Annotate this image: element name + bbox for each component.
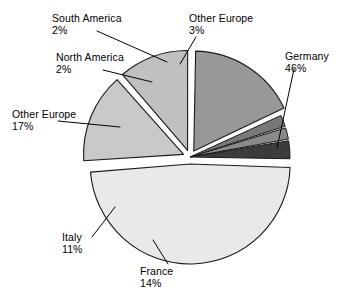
pie-chart-canvas [0,0,341,299]
label-other-europe-17-name: Other Europe [12,108,76,120]
label-france-name: France [140,265,173,277]
label-france: France 14% [140,265,173,289]
label-south-america: South America 2% [52,12,122,36]
label-north-america: North America 2% [56,51,124,75]
label-south-america-pct: 2% [52,24,122,36]
label-germany: Germany 46% [285,50,329,74]
label-north-america-name: North America [56,51,124,63]
label-italy-pct: 11% [62,243,83,255]
label-other-europe-3: Other Europe 3% [189,12,253,36]
label-other-europe-3-pct: 3% [189,24,253,36]
label-other-europe-3-name: Other Europe [189,12,253,24]
label-germany-name: Germany [285,50,329,62]
label-north-america-pct: 2% [56,63,124,75]
label-germany-pct: 46% [285,62,329,74]
label-italy: Italy 11% [62,231,83,255]
slice-germany[interactable] [91,164,291,264]
label-france-pct: 14% [140,277,173,289]
label-south-america-name: South America [52,12,122,24]
pie-chart-figure: South America 2% Other Europe 3% North A… [0,0,341,299]
label-other-europe-17-pct: 17% [12,120,76,132]
label-italy-name: Italy [62,231,82,243]
pie-slices [84,50,291,264]
label-other-europe-17: Other Europe 17% [12,108,76,132]
